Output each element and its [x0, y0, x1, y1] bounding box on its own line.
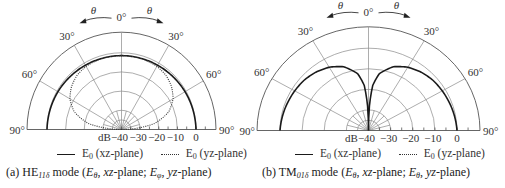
angle-label: 90°	[240, 125, 255, 137]
db-tick-label: −30	[130, 131, 148, 143]
legend-item-yz: E0 (yz-plane)	[424, 147, 485, 159]
angle-label: 60°	[206, 68, 221, 80]
panel-a-plot: dB−40−30−20−10090°60°30°0°30°60°90°θθ	[10, 4, 235, 142]
panel-a-caption: (a) HE11δ mode (Eθ, xz-plane; Eφ, yz-pla…	[6, 165, 211, 180]
angle-label: 90°	[10, 124, 25, 136]
panel-b-caption: (b) TM01δ mode (Eθ, xz-plane; Eθ, yz-pla…	[262, 165, 470, 180]
spoke	[313, 41, 369, 131]
spoke	[369, 41, 425, 131]
angle-label: 0°	[364, 6, 374, 18]
legend-dotted-line-icon	[399, 154, 417, 155]
db-tick-label: 0	[193, 131, 199, 143]
db-tick-label: −40	[111, 131, 129, 143]
legend-solid-line-icon	[57, 154, 75, 155]
db-unit-label: dB	[345, 132, 358, 144]
angle-label: 60°	[254, 66, 269, 78]
angle-label: 0°	[117, 11, 127, 23]
db-unit-label: dB	[98, 131, 111, 143]
db-tick-label: −20	[402, 132, 420, 144]
theta-label: θ	[91, 4, 97, 16]
db-tick-label: −30	[380, 132, 398, 144]
theta-label: θ	[394, 0, 400, 11]
db-tick-label: −10	[424, 132, 442, 144]
angle-label: 90°	[219, 124, 234, 136]
angle-label: 30°	[59, 30, 74, 42]
legend-item-xz: E0 (xz-plane)	[82, 147, 146, 159]
legend-dotted-line-icon	[161, 154, 179, 155]
panel-b-plot: dB−40−30−20−10090°60°30°0°30°60°90°θθ	[240, 0, 499, 144]
theta-label: θ	[147, 4, 153, 16]
angle-label: 90°	[483, 125, 498, 137]
angle-label: 30°	[298, 25, 313, 37]
db-tick-label: −20	[148, 131, 166, 143]
legend-solid-line-icon	[295, 154, 313, 155]
legend-item-xz: E0 (xz-plane)	[320, 147, 384, 159]
angle-label: 30°	[424, 25, 439, 37]
db-tick-label: −40	[358, 132, 376, 144]
db-tick-label: 0	[454, 132, 460, 144]
panel-a-legend: E0 (xz-plane) E0 (yz-plane)	[57, 147, 247, 161]
angle-label: 60°	[22, 68, 37, 80]
panel-b-legend: E0 (xz-plane) E0 (yz-plane)	[295, 147, 485, 161]
spoke	[74, 45, 121, 129]
theta-label: θ	[338, 0, 344, 11]
spoke	[122, 45, 169, 129]
angle-label: 30°	[168, 30, 183, 42]
legend-item-yz: E0 (yz-plane)	[186, 147, 247, 159]
angle-label: 60°	[468, 66, 483, 78]
db-tick-label: −10	[167, 131, 185, 143]
